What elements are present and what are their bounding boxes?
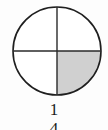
fraction-denominator: 4: [46, 120, 62, 130]
fraction-figure: 1 4: [0, 0, 108, 130]
fraction-numerator: 1: [46, 101, 62, 118]
fraction-label: 1 4: [0, 100, 108, 130]
circle-diagram-svg: [0, 0, 108, 100]
circle-diagram: [0, 0, 108, 100]
